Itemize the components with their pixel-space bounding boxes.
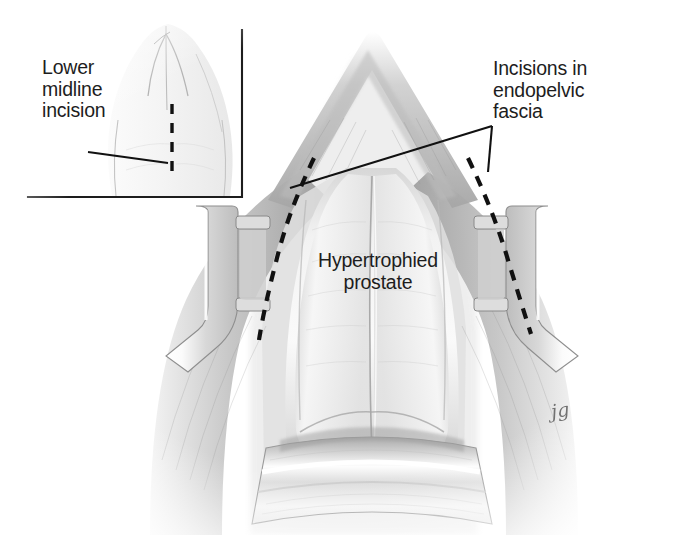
- artist-signature: jg: [550, 398, 571, 422]
- surgical-illustration-figure: Lower midline incision Incisions in endo…: [0, 0, 688, 535]
- label-incisions-endopelvic-fascia: Incisions in endopelvic fascia: [493, 58, 587, 123]
- label-lower-midline-incision: Lower midline incision: [42, 57, 105, 122]
- label-hypertrophied-prostate: Hypertrophied prostate: [318, 250, 438, 293]
